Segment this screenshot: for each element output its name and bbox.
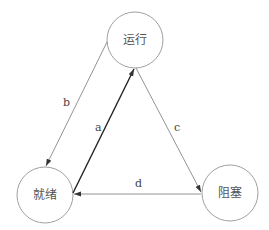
edge-a-label: a <box>95 121 102 134</box>
edge-a-arrow <box>73 69 134 193</box>
edge-b: b <box>46 42 107 166</box>
edge-c-label: c <box>174 121 180 134</box>
running-label: 运行 <box>123 33 147 47</box>
node-ready: 就绪 <box>17 167 73 223</box>
node-blocked: 阻塞 <box>202 165 258 221</box>
blocked-label: 阻塞 <box>218 185 242 200</box>
edge-c: c <box>136 68 201 192</box>
ready-label: 就绪 <box>33 188 57 202</box>
edge-b-label: b <box>63 96 70 109</box>
node-running: 运行 <box>107 12 163 68</box>
edge-d: d <box>74 177 201 194</box>
edge-a: a <box>73 69 134 193</box>
edge-d-label: d <box>135 177 142 190</box>
edge-b-arrow <box>46 42 107 166</box>
edge-c-arrow <box>136 68 201 192</box>
state-diagram: 运行 就绪 阻塞 b a c d <box>0 0 269 230</box>
